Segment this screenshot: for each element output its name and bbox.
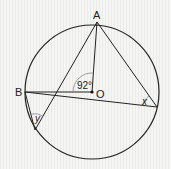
- label-angle-y: y: [34, 113, 41, 124]
- circle-diagram: A O B 92° x y: [0, 0, 171, 169]
- label-B: B: [15, 86, 22, 98]
- label-angle-92: 92°: [77, 80, 92, 91]
- label-O: O: [96, 88, 105, 100]
- label-angle-x: x: [141, 96, 148, 107]
- label-A: A: [93, 9, 101, 21]
